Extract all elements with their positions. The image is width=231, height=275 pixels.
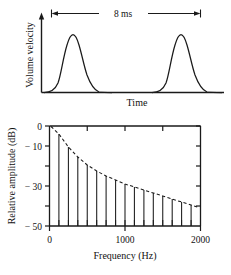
glottal-pulse-1 bbox=[44, 35, 112, 93]
period-label: 8 ms bbox=[114, 9, 133, 19]
harmonic-lines bbox=[59, 134, 191, 226]
period-marker: 8 ms bbox=[52, 9, 201, 19]
spectrum-ytick-30: − 30 bbox=[25, 182, 42, 192]
spectrum-y-ticks-right bbox=[196, 126, 201, 206]
spectrum-panel: 0 − 10 − 30 − 50 0 1000 2000 Relative am… bbox=[6, 122, 210, 263]
waveform-panel: 8 ms Volume velocity Time bbox=[24, 9, 224, 108]
waveform-y-axis bbox=[39, 13, 44, 93]
spectrum-xtick-1000: 1000 bbox=[116, 235, 135, 245]
figure-container: 8 ms Volume velocity Time bbox=[0, 0, 231, 275]
waveform-y-axis-label: Volume velocity bbox=[24, 22, 35, 88]
figure-svg: 8 ms Volume velocity Time bbox=[0, 0, 231, 275]
spectrum-ytick-0: 0 bbox=[37, 122, 42, 132]
spectrum-xtick-0: 0 bbox=[47, 235, 52, 245]
spectrum-y-axis-label: Relative amplitude (dB) bbox=[6, 128, 18, 225]
spectrum-x-ticks-bottom bbox=[50, 226, 201, 231]
spectrum-y-ticks-left bbox=[45, 126, 50, 226]
waveform-x-axis-label: Time bbox=[127, 97, 148, 108]
spectrum-xtick-2000: 2000 bbox=[191, 235, 210, 245]
spectrum-ytick-50: − 50 bbox=[25, 222, 42, 232]
spectrum-ytick-10: − 10 bbox=[25, 142, 42, 152]
glottal-pulse-2 bbox=[152, 35, 222, 93]
spectrum-x-ticks-top bbox=[87, 126, 163, 131]
y-axis-arrow-icon bbox=[39, 13, 44, 20]
period-arrow-right-icon bbox=[194, 11, 201, 16]
spectrum-x-axis-label: Frequency (Hz) bbox=[93, 250, 156, 262]
